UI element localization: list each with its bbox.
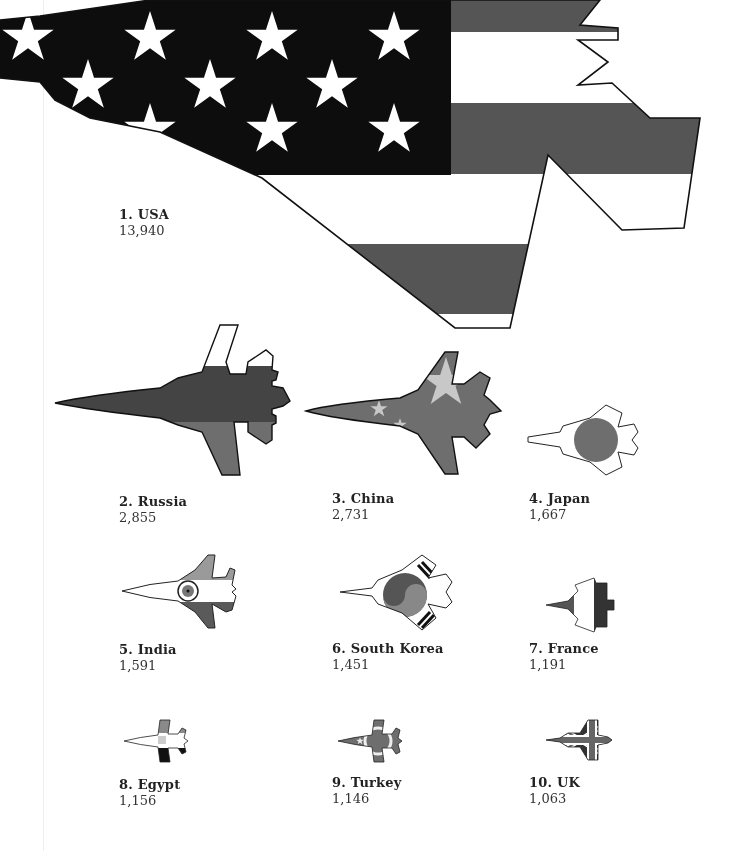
country-value: 2,855 [119,510,187,526]
country-label-france: 7. France 1,191 [529,641,599,673]
country-rank-name: 3. China [332,491,394,507]
india-flag-jet-icon [120,550,240,632]
country-value: 1,667 [529,507,590,523]
usa-flag-jet-icon [0,0,739,340]
country-rank-name: 4. Japan [529,491,590,507]
country-rank-name: 7. France [529,641,599,657]
south-korea-flag-jet-icon [335,550,460,635]
country-label-russia: 2. Russia 2,855 [119,494,187,526]
country-rank-name: 2. Russia [119,494,187,510]
country-label-usa: 1. USA 13,940 [119,207,169,239]
uk-flag-jet-icon [540,715,620,765]
japan-flag-jet-icon [520,400,650,480]
country-label-egypt: 8. Egypt 1,156 [119,777,180,809]
country-value: 1,591 [119,658,177,674]
country-value: 1,451 [332,657,444,673]
egypt-flag-jet-icon [120,715,195,766]
country-value: 2,731 [332,507,394,523]
country-label-turkey: 9. Turkey 1,146 [332,775,402,807]
country-value: 13,940 [119,223,169,239]
country-rank-name: 8. Egypt [119,777,180,793]
country-value: 1,156 [119,793,180,809]
country-value: 1,191 [529,657,599,673]
country-label-south-korea: 6. South Korea 1,451 [332,641,444,673]
turkey-flag-jet-icon [335,715,410,767]
country-label-japan: 4. Japan 1,667 [529,491,590,523]
country-rank-name: 5. India [119,642,177,658]
country-rank-name: 1. USA [119,207,169,223]
country-rank-name: 10. UK [529,775,580,791]
country-label-uk: 10. UK 1,063 [529,775,580,807]
country-value: 1,146 [332,791,402,807]
country-rank-name: 6. South Korea [332,641,444,657]
country-label-china: 3. China 2,731 [332,491,394,523]
china-flag-jet-icon [300,345,510,480]
country-rank-name: 9. Turkey [332,775,402,791]
country-label-india: 5. India 1,591 [119,642,177,674]
france-flag-jet-icon [540,575,619,635]
country-value: 1,063 [529,791,580,807]
infographic-artwork [0,0,739,851]
russia-flag-jet-icon [40,320,300,482]
